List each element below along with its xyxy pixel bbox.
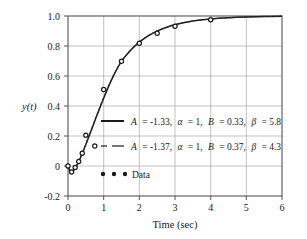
legend-solid-A-value: = -1.33, (142, 117, 172, 127)
ytick-label-0.2: 0.2 (48, 131, 61, 142)
legend-label-dashed: A = -1.37, α = 1, B = 0.37, β = 4.3 (130, 142, 281, 152)
legend-dashed-beta-value: = 4.3 (261, 142, 281, 152)
y-axis-ticks (64, 16, 68, 196)
data-point-marker (80, 151, 84, 155)
data-point-marker (84, 133, 88, 137)
legend-data-dot-samples (101, 172, 127, 176)
legend-dashed-alpha-name: α (177, 142, 183, 152)
y-tick-labels: 1.0 0.8 0.6 0.4 0.2 0 -0.2 (44, 11, 60, 202)
legend: A = -1.33, α = 1, B = 0.33, β = 5.8 A = … (101, 117, 282, 180)
data-point-marker (66, 164, 70, 168)
ytick-label-0: 0 (55, 161, 60, 172)
data-point-marker (155, 31, 159, 35)
legend-dashed-beta-name: β (250, 142, 256, 152)
xtick-label-3: 3 (173, 202, 178, 213)
legend-dashed-B-value: = 0.37, (219, 142, 246, 152)
data-point-marker (73, 165, 77, 169)
data-point-marker (77, 159, 81, 163)
x-axis-ticks (68, 196, 282, 200)
legend-dashed-alpha-value: = 1, (188, 142, 203, 152)
ytick-label-0.6: 0.6 (48, 71, 61, 82)
legend-solid-B-name: B (208, 117, 214, 127)
legend-dot-3 (123, 172, 127, 176)
x-axis-label: Time (sec) (153, 219, 198, 231)
ytick-label-0.8: 0.8 (48, 41, 61, 52)
legend-dashed-B-name: B (208, 142, 214, 152)
data-point-marker (102, 87, 106, 91)
data-point-marker (69, 170, 73, 174)
xtick-label-0: 0 (66, 202, 71, 213)
xtick-label-6: 6 (280, 202, 285, 213)
legend-solid-alpha-value: = 1, (188, 117, 203, 127)
data-point-marker (137, 41, 141, 45)
legend-solid-alpha-name: α (177, 117, 183, 127)
xtick-label-5: 5 (244, 202, 249, 213)
legend-dashed-A-value: = -1.37, (142, 142, 172, 152)
legend-label-data: Data (132, 170, 151, 180)
legend-dot-1 (101, 172, 105, 176)
legend-solid-beta-name: β (250, 117, 256, 127)
ytick-label-neg0.2: -0.2 (44, 191, 60, 202)
data-point-marker (119, 59, 123, 63)
legend-solid-beta-value: = 5.8 (261, 117, 281, 127)
ytick-label-0.4: 0.4 (48, 101, 61, 112)
xtick-label-4: 4 (208, 202, 213, 213)
xtick-label-2: 2 (137, 202, 142, 213)
y-axis-label: y(t) (21, 101, 37, 113)
legend-dot-2 (112, 172, 116, 176)
chart-canvas: 1.0 0.8 0.6 0.4 0.2 0 -0.2 0 1 2 3 4 5 6… (0, 0, 307, 239)
data-point-marker (93, 144, 97, 148)
legend-dashed-A-name: A (130, 142, 137, 152)
x-tick-labels: 0 1 2 3 4 5 6 (66, 202, 285, 213)
xtick-label-1: 1 (101, 202, 106, 213)
legend-label-solid: A = -1.33, α = 1, B = 0.33, β = 5.8 (130, 117, 281, 127)
legend-solid-B-value: = 0.33, (219, 117, 246, 127)
legend-solid-A-name: A (130, 117, 137, 127)
figure-container: 1.0 0.8 0.6 0.4 0.2 0 -0.2 0 1 2 3 4 5 6… (0, 0, 307, 239)
ytick-label-1.0: 1.0 (48, 11, 61, 22)
data-point-marker (173, 24, 177, 28)
data-point-marker (209, 18, 213, 22)
